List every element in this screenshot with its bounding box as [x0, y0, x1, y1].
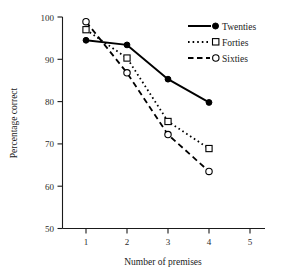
- open-square-icon: [124, 55, 130, 61]
- open-circle-icon: [124, 70, 130, 76]
- x-tick-label-4: 4: [207, 237, 212, 247]
- series-twenties: [83, 37, 212, 105]
- line-chart: 100 90 80 70 60 50 1 2 3 4 5 Number of p…: [0, 0, 281, 275]
- filled-circle-icon: [165, 76, 171, 82]
- y-axis-ticks: [58, 17, 63, 229]
- series-line-twenties: [86, 40, 209, 102]
- y-tick-label-60: 60: [45, 182, 55, 192]
- y-axis-title: Percentage correct: [9, 87, 19, 158]
- y-tick-label-80: 80: [45, 97, 55, 107]
- series-line-sixties: [86, 22, 209, 172]
- x-tick-label-1: 1: [84, 237, 89, 247]
- open-square-icon: [213, 39, 219, 45]
- legend-entry-sixties: Sixties: [188, 54, 248, 64]
- chart-legend: Twenties Forties Sixties: [188, 22, 256, 64]
- series-forties: [83, 27, 212, 152]
- y-tick-label-70: 70: [45, 139, 55, 149]
- y-axis-tick-labels: 100 90 80 70 60 50: [41, 13, 55, 235]
- legend-entry-forties: Forties: [188, 38, 249, 48]
- x-axis-tick-labels: 1 2 3 4 5: [84, 237, 253, 247]
- legend-label-forties: Forties: [222, 38, 249, 48]
- filled-circle-icon: [124, 42, 130, 48]
- legend-label-sixties: Sixties: [222, 54, 248, 64]
- legend-entry-twenties: Twenties: [188, 22, 256, 32]
- x-axis-ticks: [86, 229, 250, 234]
- y-tick-label-50: 50: [45, 224, 55, 234]
- filled-circle-icon: [83, 37, 89, 43]
- x-tick-label-2: 2: [125, 237, 130, 247]
- axis-lines: [63, 17, 266, 229]
- filled-circle-icon: [213, 23, 219, 29]
- chart-figure: 100 90 80 70 60 50 1 2 3 4 5 Number of p…: [0, 0, 281, 275]
- open-circle-icon: [213, 55, 219, 61]
- series-line-forties: [86, 30, 209, 149]
- legend-label-twenties: Twenties: [222, 22, 256, 32]
- x-axis-title: Number of premises: [124, 257, 202, 267]
- open-square-icon: [83, 27, 89, 33]
- y-tick-label-90: 90: [45, 55, 55, 65]
- open-circle-icon: [206, 168, 212, 174]
- x-tick-label-5: 5: [248, 237, 253, 247]
- y-tick-label-100: 100: [41, 13, 55, 23]
- open-square-icon: [165, 118, 171, 124]
- x-tick-label-3: 3: [166, 237, 171, 247]
- filled-circle-icon: [206, 100, 212, 106]
- open-square-icon: [206, 145, 212, 151]
- open-circle-icon: [83, 18, 89, 24]
- open-circle-icon: [165, 131, 171, 137]
